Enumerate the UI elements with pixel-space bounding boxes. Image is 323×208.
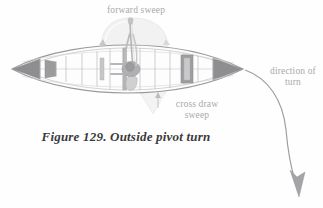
- label-cross-draw-sweep: cross draw sweep: [158, 99, 236, 121]
- stern-seat-frame: [184, 58, 190, 80]
- direction-of-turn-arrow-group: [245, 70, 305, 197]
- label-cross-draw-sweep-line2: sweep: [158, 110, 236, 121]
- paddler-head: [126, 63, 134, 71]
- label-cross-draw-sweep-line1: cross draw: [158, 99, 236, 110]
- figure-caption: Figure 129. Outside pivot turn: [0, 129, 252, 145]
- label-direction-of-turn-line2: turn: [264, 77, 322, 88]
- label-direction-of-turn: direction of turn: [264, 66, 322, 88]
- paddle-grip: [128, 18, 133, 24]
- stern-seat-group: [181, 55, 193, 83]
- bow-seat: [100, 58, 104, 80]
- direction-of-turn-arrowhead: [290, 170, 305, 197]
- bow-seat-group: [100, 58, 104, 80]
- figure-page: forward sweep cross draw sweep direction…: [0, 0, 323, 208]
- bow-deck-secondary: [45, 60, 56, 78]
- label-direction-of-turn-line1: direction of: [264, 66, 322, 77]
- label-forward-sweep: forward sweep: [94, 5, 178, 16]
